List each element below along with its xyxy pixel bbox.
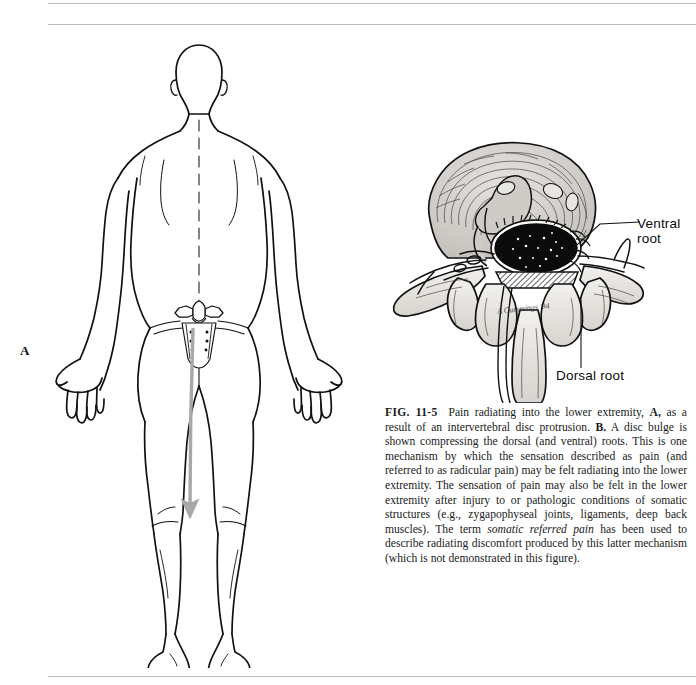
page-rule-bottom — [48, 676, 696, 677]
caption-figure-number: FIG. 11-5 — [385, 406, 438, 419]
ventral-root-label-line1: Ventral — [637, 216, 680, 231]
caption-ref-a: A, — [650, 406, 661, 419]
caption-part-1: Pain radiating into the lower extremity, — [449, 406, 650, 419]
ventral-root-label-line2: root — [637, 231, 661, 246]
page-rule-second — [48, 24, 696, 25]
ventral-root-leader-line — [556, 218, 646, 278]
ventral-root-label: Ventral root — [637, 216, 695, 246]
caption-ref-b: B. — [595, 421, 606, 434]
caption-part-3: A disc bulge is shown compressing the do… — [385, 421, 687, 536]
figure-caption: FIG. 11-5Pain radiating into the lower e… — [385, 406, 687, 567]
figure-page: A — [0, 0, 696, 685]
caption-italic-term: somatic referred pain — [487, 523, 594, 536]
panel-a-letter-label: A — [20, 343, 30, 359]
page-rule-top — [48, 3, 696, 4]
dorsal-root-leader-line — [572, 300, 592, 372]
dorsal-root-label: Dorsal root — [556, 368, 656, 383]
panel-a-posterior-body — [24, 28, 374, 668]
